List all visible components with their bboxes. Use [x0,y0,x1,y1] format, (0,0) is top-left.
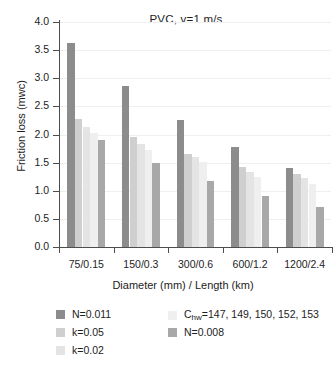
bar [184,154,192,247]
legend-item-label: Chw=147, 149, 150, 152, 153 [184,309,319,321]
legend-item: k=0.05 [56,327,104,338]
bar [309,184,317,247]
bar [199,162,207,248]
bar [152,163,160,247]
bar [192,157,200,247]
legend-item: Chw=147, 149, 150, 152, 153 [168,309,319,321]
y-tick-label: 0.5 [9,212,49,224]
x-tick-mark [277,247,278,253]
legend-item-label: N=0.008 [184,327,224,338]
x-axis-title: Diameter (mm) / Length (km) [0,279,336,291]
y-tick-label: 3.5 [9,43,49,55]
y-tick-label: 3.0 [9,71,49,83]
y-tick-label: 2.0 [9,128,49,140]
x-axis-line [59,247,332,248]
bar [207,181,215,247]
bar [75,119,83,247]
y-tick-label: 1.0 [9,184,49,196]
legend-color-swatch [168,328,177,337]
legend-item-label: N=0.011 [72,309,111,320]
x-tick-label: 150/0.3 [123,258,158,270]
legend-color-swatch [56,310,65,319]
bar [262,196,270,247]
bar [98,140,106,247]
bar [316,207,324,247]
x-tick-label: 1200/2.4 [284,258,325,270]
y-tick-label: 0.0 [9,240,49,252]
bar [254,177,262,247]
x-tick-mark [332,247,333,253]
bar [122,86,130,247]
y-tick-label: 4.0 [9,15,49,27]
y-tick-label: 2.5 [9,99,49,111]
bar [145,150,153,247]
bar [90,133,98,247]
bar [83,127,91,247]
x-tick-label: 75/0.15 [69,258,104,270]
bar [177,120,185,247]
x-tick-mark [223,247,224,253]
legend-item-label: k=0.02 [72,345,104,356]
bar [301,178,309,247]
bar [137,144,145,247]
x-tick-mark [59,247,60,253]
bar [246,172,254,247]
bar [231,147,239,247]
y-axis-title: Friction loss (mwc) [15,26,27,226]
x-tick-mark [114,247,115,253]
legend-color-swatch [56,328,65,337]
x-tick-mark [168,247,169,253]
bar [293,174,301,247]
legend-item: N=0.008 [168,327,224,338]
y-tick-label: 1.5 [9,156,49,168]
legend-color-swatch [168,311,177,320]
legend-color-swatch [56,346,65,355]
bar [239,167,247,247]
x-tick-label: 600/1.2 [233,258,268,270]
legend-item-label: k=0.05 [72,327,104,338]
bar [67,43,75,247]
bar [286,168,294,247]
legend-item: k=0.02 [56,345,104,356]
bar [130,137,138,247]
x-tick-label: 300/0.6 [178,258,213,270]
bars-layer [59,22,332,247]
chart-container: PVC, v=1 m/s Friction loss (mwc) 0.00.51… [0,0,336,376]
legend-item: N=0.011 [56,309,111,320]
